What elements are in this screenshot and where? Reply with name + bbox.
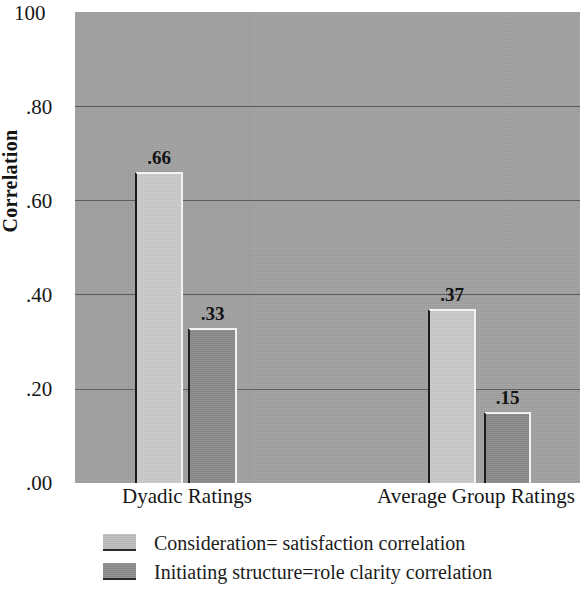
bar-value-label-average-group-consideration: .37 xyxy=(428,285,476,304)
legend-label-initiating-structure: Initiating structure=role clarity correl… xyxy=(154,562,492,582)
plot-area xyxy=(75,12,580,483)
bar-value-label-dyadic-consideration: .66 xyxy=(135,148,183,167)
legend-swatch-consideration xyxy=(103,534,136,551)
bar-average-group-consideration xyxy=(428,309,476,483)
bar-value-label-average-group-initiating-structure: .15 xyxy=(484,388,531,407)
y-axis-title: Correlation xyxy=(0,96,22,266)
bar-dyadic-initiating-structure xyxy=(188,328,237,483)
bar-chart-figure: 100 .80 .60 .40 .20 .00 Correlation .66 … xyxy=(0,0,580,595)
legend-swatch-initiating-structure xyxy=(103,563,136,580)
legend-label-consideration: Consideration= satisfaction correlation xyxy=(154,533,465,553)
legend: Consideration= satisfaction correlation … xyxy=(103,528,573,586)
bar-value-label-dyadic-initiating-structure: .33 xyxy=(188,304,237,323)
bar-dyadic-consideration xyxy=(135,172,183,483)
x-axis-category-label-dyadic: Dyadic Ratings xyxy=(116,486,258,507)
legend-item-consideration: Consideration= satisfaction correlation xyxy=(103,528,573,557)
x-axis-category-label-average-group: Average Group Ratings xyxy=(372,486,580,507)
legend-item-initiating-structure: Initiating structure=role clarity correl… xyxy=(103,557,573,586)
bar-average-group-initiating-structure xyxy=(484,412,531,483)
gridline-80 xyxy=(75,106,580,107)
